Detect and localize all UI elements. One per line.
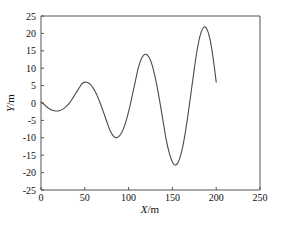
y-tick-label: -25 <box>23 185 36 196</box>
y-axis-title-unit: /m <box>4 94 16 106</box>
x-tick-label: 100 <box>121 192 136 203</box>
x-tick-label: 250 <box>253 192 268 203</box>
x-tick-label: 150 <box>165 192 180 203</box>
y-tick-label: 10 <box>26 63 36 74</box>
y-tick-label: 25 <box>26 11 36 22</box>
y-tick-label: -15 <box>23 150 36 161</box>
x-axis-title: X/m <box>140 203 160 215</box>
chart-figure: 050100150200250 2520151050-5-10-15-20-25… <box>0 0 282 225</box>
svg-text:Y/m: Y/m <box>4 94 16 112</box>
y-axis-title: Y/m <box>4 94 16 112</box>
x-tick-label: 50 <box>80 192 90 203</box>
y-tick-label: -10 <box>23 132 36 143</box>
x-tick-label: 0 <box>39 192 44 203</box>
svg-text:X/m: X/m <box>140 203 160 215</box>
x-axis-title-unit: /m <box>148 203 160 215</box>
x-tick-label: 200 <box>209 192 224 203</box>
y-tick-label: 0 <box>31 98 36 109</box>
y-tick-label: -20 <box>23 167 36 178</box>
y-tick-label: 15 <box>26 45 36 56</box>
line-chart: 050100150200250 2520151050-5-10-15-20-25… <box>0 0 282 225</box>
y-tick-label: 20 <box>26 28 36 39</box>
y-tick-label: 5 <box>31 80 36 91</box>
y-tick-label: -5 <box>28 115 36 126</box>
